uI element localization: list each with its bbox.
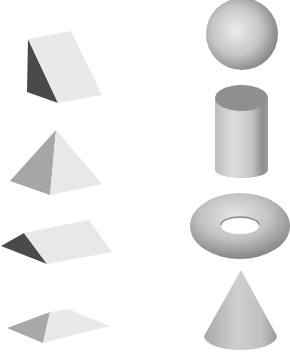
pyramid-shape [10, 130, 102, 195]
flat-pyramid-shape [7, 309, 110, 343]
shapes-figure: Eight shaded 3D geometric solids arrange… [0, 0, 290, 360]
cylinder-shape [215, 85, 268, 178]
prism-shape [1, 220, 112, 264]
wedge-shape [27, 31, 102, 103]
cone-shape [204, 270, 277, 350]
torus-shape [190, 193, 290, 259]
sphere-shape [206, 0, 278, 70]
